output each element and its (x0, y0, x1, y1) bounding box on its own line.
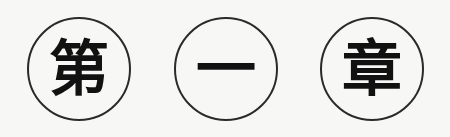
heading-char-di: 第 (49, 39, 109, 99)
heading-char-zhang: 章 (342, 39, 402, 99)
heading-circle-2: 一 (174, 17, 278, 121)
heading-circle-3: 章 (320, 17, 424, 121)
heading-char-yi: 一 (196, 39, 256, 99)
heading-circle-1: 第 (27, 17, 131, 121)
